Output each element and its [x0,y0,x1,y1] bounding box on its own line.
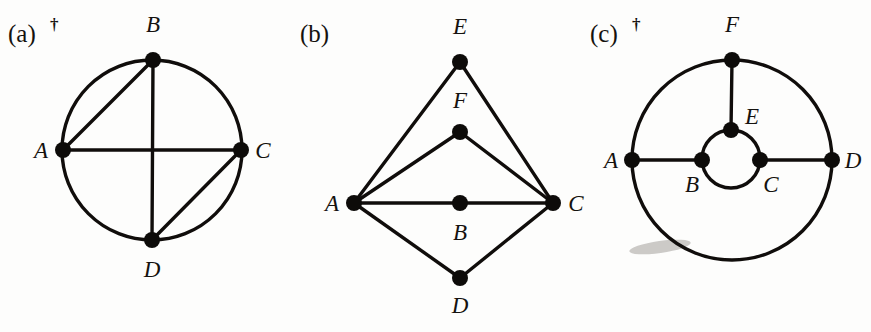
panel-c-vertex-F [724,52,740,68]
panel-c-label-D: D [844,148,862,173]
panel-b-edge-A-E [354,62,460,203]
panel-c-tag: (c) [590,20,618,48]
panel-a-label-C: C [255,138,271,163]
panel-c-label-C: C [763,172,779,197]
panel-b-vertex-D [452,270,468,286]
panel-a-edge-A-B [63,60,153,150]
panel-a-vertex-A [55,142,71,158]
panel-c-edge-F-E [731,60,732,130]
panel-b-tag: (b) [300,20,329,48]
panel-b-label-A: A [323,191,340,216]
figure-container: (a) † A B C D (b) [0,0,871,332]
panel-b-edge-E-C [460,62,553,203]
panel-c-label-F: F [724,12,740,37]
panel-b-edge-F-C [460,132,553,203]
panel-b-vertex-C [545,195,561,211]
panel-b-label-E: E [452,14,467,39]
panel-a-label-B: B [146,12,160,37]
panel-b-vertex-B [452,195,468,211]
panel-c-vertex-B [694,152,710,168]
panel-a-vertex-C [233,142,249,158]
panel-a-edge-B-D [152,60,153,240]
panel-a: (a) † A B C D [8,12,271,282]
panel-a-label-A: A [32,138,49,163]
panel-b: (b) A B C D E F [300,14,584,318]
panel-c-vertex-D [824,152,840,168]
panel-b-edge-D-C [460,203,553,278]
panel-c-vertex-E [723,122,739,138]
panel-a-dagger-icon: † [50,15,59,34]
panel-c-label-A: A [602,148,619,173]
panel-a-label-D: D [143,257,161,282]
panel-a-tag: (a) [8,20,36,48]
panel-c-vertex-C [752,152,768,168]
panel-b-vertex-F [452,124,468,140]
panel-c-dagger-icon: † [632,15,641,34]
panel-c-label-B: B [685,172,699,197]
panel-b-vertex-E [452,54,468,70]
panel-b-label-D: D [451,293,469,318]
panel-b-edge-A-D [354,203,460,278]
panel-b-label-F: F [452,88,468,113]
graph-figure-svg: (a) † A B C D (b) [0,0,871,332]
panel-b-label-C: C [568,191,584,216]
panel-b-edge-A-F [354,132,460,203]
panel-c-label-E: E [744,104,759,129]
panel-a-vertex-D [144,232,160,248]
panel-b-vertex-A [346,195,362,211]
panel-c-vertex-A [624,152,640,168]
panel-a-vertex-B [145,52,161,68]
panel-c-inner-circle [702,130,760,188]
panel-c: (c) † A B C D E F [590,12,862,260]
panel-b-label-B: B [453,220,467,245]
